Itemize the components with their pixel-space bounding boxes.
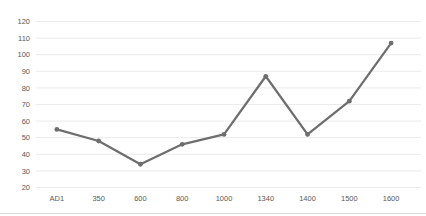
data-series-line xyxy=(57,43,391,164)
y-axis-tick-label: 70 xyxy=(22,100,30,109)
data-point-marker xyxy=(180,142,185,147)
line-chart: 2030405060708090100110120AD1350600800100… xyxy=(0,0,426,216)
y-axis-tick-label: 40 xyxy=(22,150,30,159)
x-axis-tick-label: 1600 xyxy=(383,194,400,203)
y-axis-tick-label: 100 xyxy=(17,50,30,59)
data-point-marker xyxy=(305,132,310,137)
data-point-marker xyxy=(138,162,143,167)
data-point-marker xyxy=(389,41,394,46)
x-axis-tick-label: 350 xyxy=(92,194,105,203)
x-axis-tick-label: 1400 xyxy=(299,194,316,203)
x-axis-tick-label: 1340 xyxy=(257,194,274,203)
y-axis-tick-label: 20 xyxy=(22,183,30,192)
y-axis-tick-label: 30 xyxy=(22,167,30,176)
data-point-marker xyxy=(263,74,268,79)
y-axis-tick-label: 90 xyxy=(22,67,30,76)
y-axis-tick-label: 80 xyxy=(22,84,30,93)
window-bottom-border xyxy=(0,213,426,214)
data-point-marker xyxy=(54,127,59,132)
data-point-marker xyxy=(347,99,352,104)
data-point-marker xyxy=(96,139,101,144)
x-axis-tick-label: 1500 xyxy=(341,194,358,203)
x-axis-tick-label: 600 xyxy=(134,194,147,203)
x-axis-tick-label: AD1 xyxy=(50,194,65,203)
y-axis-tick-label: 50 xyxy=(22,133,30,142)
y-axis-tick-label: 120 xyxy=(17,17,30,26)
x-axis-tick-label: 1000 xyxy=(216,194,233,203)
y-axis-tick-label: 110 xyxy=(18,34,30,43)
y-axis-tick-label: 60 xyxy=(22,117,30,126)
x-axis-tick-label: 800 xyxy=(176,194,189,203)
data-point-marker xyxy=(222,132,227,137)
line-chart-canvas: 2030405060708090100110120AD1350600800100… xyxy=(0,0,426,216)
